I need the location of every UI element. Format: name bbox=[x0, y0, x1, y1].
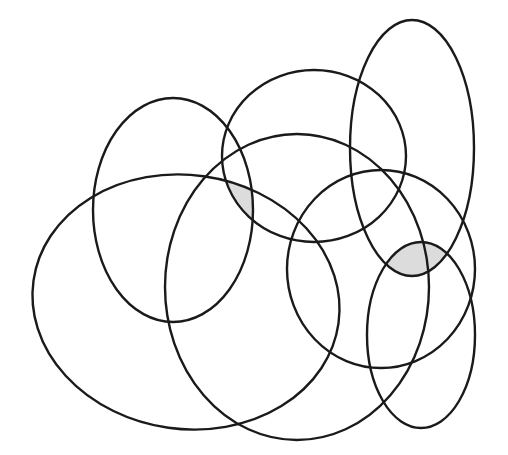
ellipse-large-left bbox=[16, 155, 356, 449]
ellipse-diagram bbox=[0, 0, 508, 455]
ellipse-top-middle bbox=[222, 70, 406, 242]
ellipse-outlines bbox=[16, 20, 475, 449]
ellipse-right-middle bbox=[287, 170, 475, 368]
ellipse-upper-left bbox=[93, 98, 253, 322]
ellipse-tall-right bbox=[350, 20, 474, 276]
